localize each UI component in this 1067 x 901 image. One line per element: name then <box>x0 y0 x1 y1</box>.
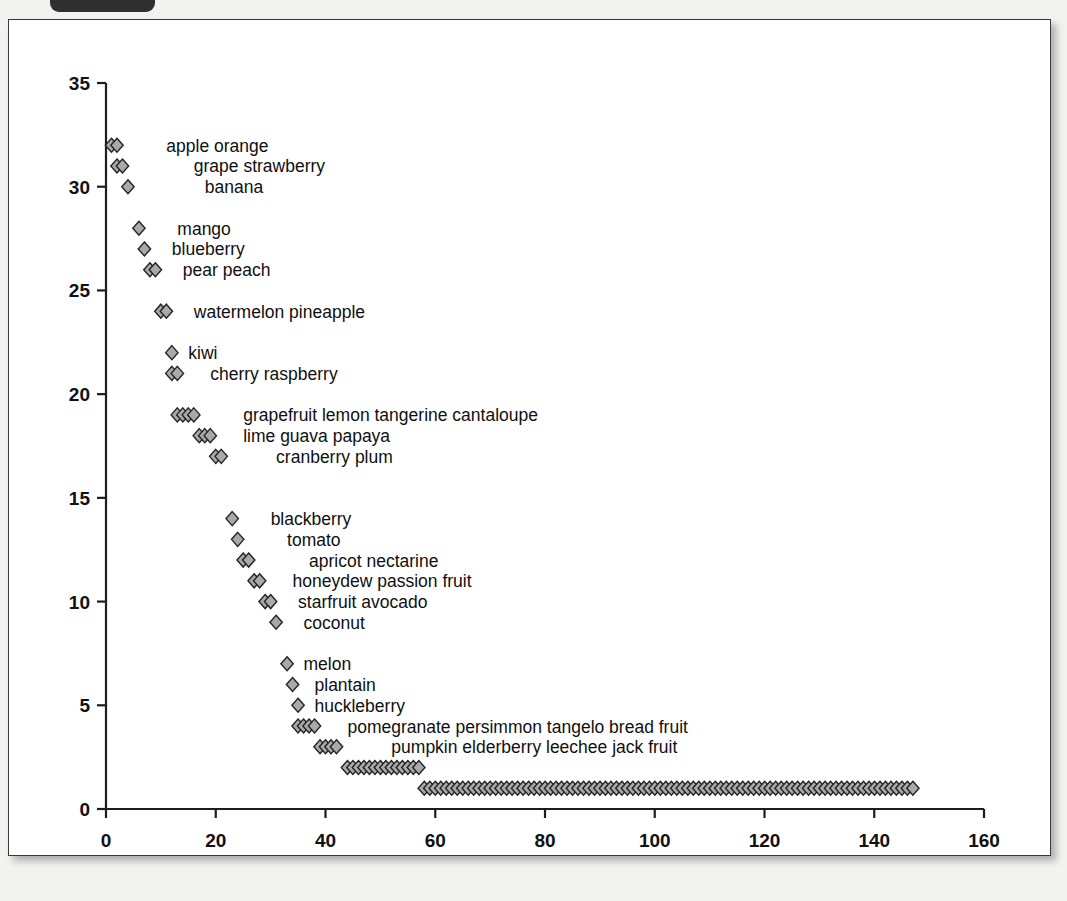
data-point-marker <box>292 698 304 712</box>
chart-panel: 05101520253035020406080100120140160apple… <box>8 19 1051 856</box>
data-point-label: apple orange <box>166 136 268 156</box>
data-point-marker <box>133 221 145 235</box>
y-tick-label: 0 <box>79 799 90 820</box>
data-point-label: melon <box>304 654 352 674</box>
x-tick-label: 120 <box>749 830 781 851</box>
scatter-plot: 05101520253035020406080100120140160apple… <box>9 20 1052 857</box>
data-point-label: huckleberry <box>315 696 406 716</box>
data-point-label: coconut <box>304 613 365 633</box>
plot-canvas: 05101520253035020406080100120140160apple… <box>9 20 1052 857</box>
data-point-label: pomegranate persimmon tangelo bread frui… <box>347 717 688 737</box>
data-point-label: honeydew passion fruit <box>293 571 472 591</box>
data-point-label: apricot nectarine <box>309 551 438 571</box>
data-point-label: mango <box>177 219 231 239</box>
data-point-marker <box>270 615 282 629</box>
x-tick-label: 160 <box>968 830 1000 851</box>
data-point-label: starfruit avocado <box>298 592 427 612</box>
data-point-label: cherry raspberry <box>210 364 338 384</box>
y-tick-label: 10 <box>69 592 90 613</box>
data-point-label: grape strawberry <box>194 156 326 176</box>
data-point-label: kiwi <box>188 343 217 363</box>
data-point-marker <box>281 657 293 671</box>
data-point-label: blueberry <box>172 239 245 259</box>
y-tick-label: 35 <box>69 73 91 94</box>
data-point-label: grapefruit lemon tangerine cantaloupe <box>243 405 538 425</box>
y-tick-label: 15 <box>69 488 91 509</box>
x-tick-label: 100 <box>639 830 671 851</box>
x-tick-label: 40 <box>315 830 336 851</box>
data-point-marker <box>226 512 238 526</box>
data-point-marker <box>166 346 178 360</box>
x-tick-label: 20 <box>205 830 226 851</box>
data-point-label: lime guava papaya <box>243 426 390 446</box>
data-point-marker <box>286 678 298 692</box>
data-point-marker <box>122 180 134 194</box>
data-point-label: banana <box>205 177 264 197</box>
x-tick-label: 60 <box>425 830 446 851</box>
y-tick-label: 20 <box>69 384 90 405</box>
y-tick-label: 25 <box>69 280 91 301</box>
x-tick-label: 0 <box>101 830 112 851</box>
data-point-label: pumpkin elderberry leechee jack fruit <box>391 737 677 757</box>
y-tick-label: 5 <box>79 695 90 716</box>
x-tick-label: 80 <box>534 830 555 851</box>
data-point-marker <box>138 242 150 256</box>
window-title-tag <box>50 0 155 12</box>
data-point-label: watermelon pineapple <box>193 302 365 322</box>
data-point-label: plantain <box>315 675 376 695</box>
y-tick-label: 30 <box>69 177 90 198</box>
data-point-label: tomato <box>287 530 341 550</box>
data-point-label: pear peach <box>183 260 271 280</box>
data-point-label: cranberry plum <box>276 447 393 467</box>
data-point-marker <box>232 532 244 546</box>
data-point-label: blackberry <box>271 509 352 529</box>
x-tick-label: 140 <box>858 830 890 851</box>
